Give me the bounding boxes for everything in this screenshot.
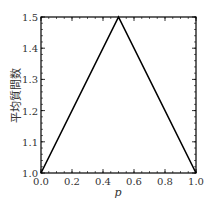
y-tick-label: 1.5	[22, 12, 38, 23]
data-line	[41, 17, 196, 173]
axes-frame	[41, 17, 196, 173]
y-tick-label: 1.4	[22, 43, 38, 54]
y-tick-label: 1.2	[22, 106, 38, 117]
x-tick-label: 1.0	[188, 176, 204, 187]
y-tick-label: 1.0	[22, 168, 38, 179]
y-tick-label: 1.1	[22, 137, 38, 148]
x-tick-label: 0.2	[64, 176, 80, 187]
y-axis-label: 平均質問数	[9, 68, 23, 123]
x-axis-label: p	[114, 186, 121, 199]
plot-area: 0.00.20.40.60.81.01.01.11.21.31.41.5	[22, 12, 204, 187]
y-tick-label: 1.3	[22, 74, 38, 85]
x-tick-label: 0.6	[126, 176, 142, 187]
chart: 0.00.20.40.60.81.01.01.11.21.31.41.5 p 平…	[0, 0, 213, 212]
x-tick-label: 0.4	[95, 176, 111, 187]
x-tick-label: 0.8	[157, 176, 173, 187]
